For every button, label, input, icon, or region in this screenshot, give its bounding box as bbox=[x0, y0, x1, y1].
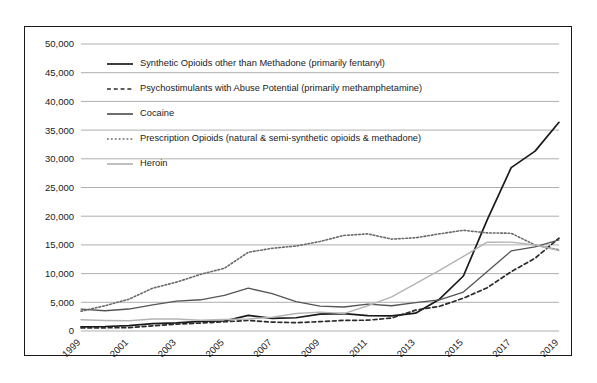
y-axis-tick-label: 50,000 bbox=[45, 38, 74, 49]
y-axis-tick-label: 45,000 bbox=[45, 67, 74, 78]
x-axis-tick-label: 2017 bbox=[490, 337, 513, 357]
x-axis-tick-label: 1999 bbox=[60, 337, 83, 357]
x-axis-tick-label: 2015 bbox=[442, 337, 465, 357]
y-axis-tick-label: 30,000 bbox=[45, 153, 74, 164]
series-line bbox=[81, 242, 559, 321]
legend-label: Psychostimulants with Abuse Potential (p… bbox=[140, 83, 422, 93]
series-line bbox=[81, 240, 559, 311]
y-axis-tick-label: 40,000 bbox=[45, 96, 74, 107]
x-axis-tick-label: 2013 bbox=[394, 337, 417, 357]
y-axis-tick-label: 15,000 bbox=[45, 239, 74, 250]
plot-area: 05,00010,00015,00020,00025,00030,00035,0… bbox=[25, 27, 573, 357]
x-axis-tick-label: 2005 bbox=[203, 337, 226, 357]
x-axis-tick-label: 2001 bbox=[107, 337, 130, 357]
x-axis-tick-label: 2009 bbox=[299, 337, 322, 357]
legend-label: Cocaine bbox=[140, 108, 174, 118]
y-axis-tick-label: 10,000 bbox=[45, 268, 74, 279]
x-axis-tick-label: 2007 bbox=[251, 337, 274, 357]
y-axis-tick-label: 25,000 bbox=[45, 182, 74, 193]
y-axis-tick-label: 0 bbox=[69, 325, 74, 336]
legend-label: Prescription Opioids (natural & semi-syn… bbox=[140, 133, 421, 143]
line-chart: 05,00010,00015,00020,00025,00030,00035,0… bbox=[25, 27, 573, 357]
x-axis-tick-label: 2003 bbox=[155, 337, 178, 357]
series-line bbox=[81, 122, 559, 327]
y-axis-tick-label: 35,000 bbox=[45, 125, 74, 136]
legend-label: Synthetic Opioids other than Methadone (… bbox=[140, 58, 385, 68]
chart-frame: 05,00010,00015,00020,00025,00030,00035,0… bbox=[24, 26, 572, 356]
x-axis-tick-label: 2019 bbox=[538, 337, 561, 357]
y-axis-tick-label: 20,000 bbox=[45, 211, 74, 222]
y-axis-tick-label: 5,000 bbox=[50, 297, 74, 308]
x-axis-tick-label: 2011 bbox=[347, 337, 369, 357]
legend-label: Heroin bbox=[140, 158, 167, 168]
